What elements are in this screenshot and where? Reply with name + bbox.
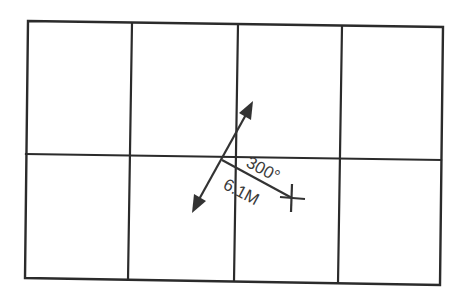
grid-vertical-line-2 bbox=[234, 24, 238, 281]
arrow-down-icon bbox=[192, 194, 206, 213]
plotting-diagram: 300° 6.1M bbox=[0, 0, 469, 306]
grid-horizontal-line bbox=[26, 154, 441, 160]
grid-vertical-line-1 bbox=[128, 23, 132, 280]
distance-label: 6.1M bbox=[220, 175, 262, 210]
arrow-up-icon bbox=[239, 101, 253, 120]
grid-vertical-line-3 bbox=[338, 26, 342, 283]
target-cross-icon bbox=[280, 184, 305, 212]
